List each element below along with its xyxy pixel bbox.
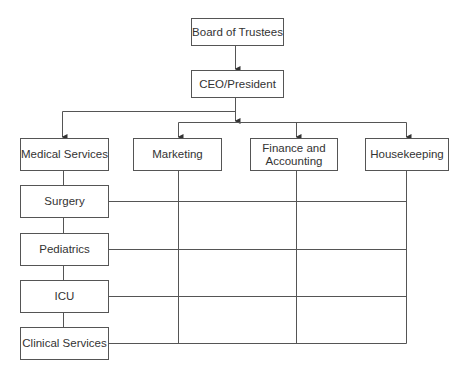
node-label: Clinical Services <box>22 337 106 350</box>
node-finance-and-accounting: Finance and Accounting <box>250 138 338 171</box>
node-medical-services: Medical Services <box>20 138 109 171</box>
node-label: CEO/President <box>199 78 276 91</box>
node-clinical-services: Clinical Services <box>20 327 109 360</box>
node-label: Board of Trustees <box>192 26 283 39</box>
node-label: Finance and Accounting <box>259 142 329 168</box>
node-label: Housekeeping <box>370 148 444 161</box>
node-label: Medical Services <box>21 148 108 161</box>
node-housekeeping: Housekeeping <box>365 138 449 171</box>
node-icu: ICU <box>20 280 109 313</box>
node-label: ICU <box>55 290 75 303</box>
node-label: Marketing <box>152 148 203 161</box>
node-surgery: Surgery <box>20 185 109 218</box>
node-pediatrics: Pediatrics <box>20 233 109 266</box>
node-ceo-president: CEO/President <box>191 70 284 98</box>
node-label: Pediatrics <box>39 243 90 256</box>
node-label: Surgery <box>44 195 84 208</box>
node-board-of-trustees: Board of Trustees <box>191 18 284 46</box>
node-marketing: Marketing <box>133 138 222 171</box>
